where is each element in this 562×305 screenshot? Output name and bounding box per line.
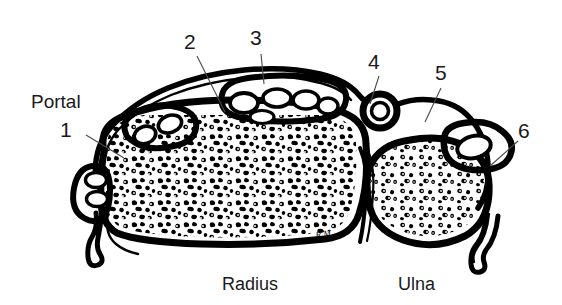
label-number-4: 4 [368,50,380,73]
vessel-lumen-4 [372,103,389,120]
vessel-lumen-3d [318,98,338,114]
vessel-lumen-3a [230,93,258,113]
vessel-lumen-3b [263,89,291,107]
label-portal: Portal [31,91,81,112]
vessel-lumen-3c [293,91,319,109]
vessel-lumen-3e [250,111,274,124]
vessel-lumen-1a [86,173,107,188]
vessel-group-interosseous [363,94,397,128]
label-number-5: 5 [435,61,447,84]
label-number-6: 6 [518,119,530,142]
label-number-2: 2 [184,30,196,53]
label-radius: Radius [222,274,278,294]
label-number-1: 1 [60,118,72,141]
label-ulna: Ulna [398,274,436,294]
forearm-cross-section-diagram: Portal 1 2 3 4 5 6 Radius Ulna R.M. [0,0,562,305]
label-number-3: 3 [250,26,262,49]
vessel-lumen-1b [87,192,108,207]
figure-container: Portal 1 2 3 4 5 6 Radius Ulna R.M. [0,0,562,305]
